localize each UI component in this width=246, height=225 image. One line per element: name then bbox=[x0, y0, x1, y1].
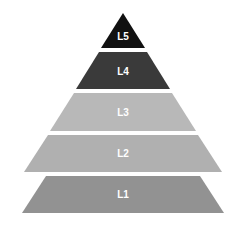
pyramid-level-l1-label: L1 bbox=[117, 189, 129, 200]
pyramid-level-l2-label: L2 bbox=[117, 148, 129, 159]
pyramid-level-l4-label: L4 bbox=[117, 66, 129, 77]
pyramid-level-l1-group[interactable]: L1 bbox=[22, 176, 224, 213]
pyramid-level-l2-group[interactable]: L2 bbox=[24, 135, 222, 172]
pyramid-level-l3-label: L3 bbox=[117, 107, 129, 118]
pyramid-svg: L1 L2 L3 L4 L5 bbox=[0, 0, 246, 225]
pyramid-diagram: L1 L2 L3 L4 L5 bbox=[0, 0, 246, 225]
pyramid-level-l5-label: L5 bbox=[117, 31, 129, 42]
pyramid-level-l3-group[interactable]: L3 bbox=[50, 93, 196, 131]
